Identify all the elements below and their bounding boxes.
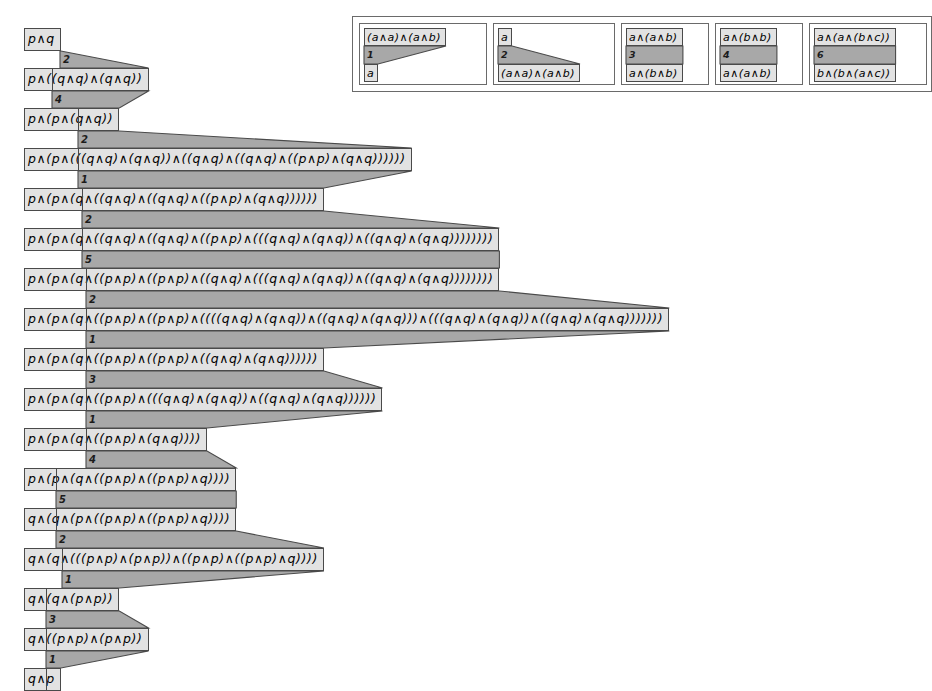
formula-row: p∧(p∧(((q∧q)∧(q∧q))∧((q∧q)∧((q∧q)∧((p∧p)… [24, 148, 412, 171]
rewrite-step-number: 1 [89, 335, 96, 345]
formula-text: p∧(p∧(q∧((p∧p)∧(((q∧q)∧(q∧q))∧((q∧q)∧(q∧… [28, 393, 376, 406]
rewrite-step-number: 2 [81, 135, 88, 145]
formula-row: p∧(p∧(q∧((q∧q)∧((q∧q)∧((p∧p)∧(q∧q)))))) [24, 188, 324, 211]
rewrite-band-11-12 [56, 491, 236, 508]
rewrite-band-4-5 [82, 211, 499, 228]
rewrite-band-2-3 [78, 131, 412, 148]
formula-text: p∧(p∧(q∧((p∧p)∧((p∧p)∧((((q∧q)∧(q∧q))∧((… [28, 313, 663, 326]
formula-row: p∧(p∧(q∧((q∧q)∧((q∧q)∧((p∧p)∧(((q∧q)∧(q∧… [24, 228, 499, 251]
rewrite-band-12-13 [56, 531, 324, 548]
formula-row: p∧(p∧(q∧((p∧p)∧(q∧q)))) [24, 428, 207, 451]
rewrite-step-number: 2 [59, 535, 66, 545]
formula-text: q∧p [28, 673, 55, 686]
formula-row: p∧q [24, 28, 61, 51]
rewrite-step-number: 1 [89, 415, 96, 425]
rewrite-band-8-9 [86, 371, 382, 388]
formula-row: p∧(p∧(q∧((p∧p)∧((p∧p)∧((q∧q)∧(q∧q)))))) [24, 348, 324, 371]
formula-row: p∧(p∧(q∧((p∧p)∧((p∧p)∧q)))) [24, 468, 236, 491]
rewrite-step-number: 2 [89, 295, 96, 305]
formula-row: p∧(p∧(q∧((p∧p)∧(((q∧q)∧(q∧q))∧((q∧q)∧(q∧… [24, 388, 382, 411]
rewrite-step-number: 4 [55, 95, 62, 105]
formula-text: p∧(p∧(q∧((q∧q)∧((q∧q)∧((p∧p)∧(q∧q)))))) [28, 193, 318, 206]
rewrite-band-1-2 [52, 91, 149, 108]
rewrite-step-number: 5 [85, 255, 92, 265]
rewrite-band-15-16 [46, 651, 149, 668]
formula-text: p∧(p∧(((q∧q)∧(q∧q))∧((q∧q)∧((q∧q)∧((p∧p)… [28, 153, 406, 166]
formula-text: p∧(p∧(q∧((p∧p)∧(q∧q)))) [28, 433, 201, 446]
rewrite-step-number: 4 [89, 455, 96, 465]
formula-text: p∧((q∧q)∧(q∧q)) [28, 73, 143, 86]
rewrite-band-13-14 [62, 571, 324, 588]
formula-text: q∧((p∧p)∧(p∧p)) [28, 633, 143, 646]
formula-text: q∧(q∧(((p∧p)∧(p∧p))∧((p∧p)∧((p∧p)∧q)))) [28, 553, 318, 566]
rewrite-band-5-6 [82, 251, 499, 268]
formula-row: q∧(q∧(p∧p)) [24, 588, 119, 611]
formula-row: p∧(p∧(q∧((p∧p)∧((p∧p)∧((q∧q)∧(((q∧q)∧(q∧… [24, 268, 499, 291]
formula-row: q∧(q∧(((p∧p)∧(p∧p))∧((p∧p)∧((p∧p)∧q)))) [24, 548, 324, 571]
rewrite-band-0-1 [60, 51, 149, 68]
rewrite-band-9-10 [86, 411, 382, 428]
rewrite-step-number: 5 [59, 495, 66, 505]
formula-text: p∧(p∧(q∧((q∧q)∧((q∧q)∧((p∧p)∧(((q∧q)∧(q∧… [28, 233, 493, 246]
rewrite-band-3-4 [78, 171, 412, 188]
formula-text: p∧(p∧(q∧((p∧p)∧((p∧p)∧q)))) [28, 473, 230, 486]
rewrite-band-10-11 [86, 451, 236, 468]
formula-text: q∧(q∧(p∧((p∧p)∧((p∧p)∧q)))) [28, 513, 230, 526]
formula-row: q∧p [24, 668, 61, 691]
rewrite-band-6-7 [86, 291, 669, 308]
rewrite-step-number: 2 [85, 215, 92, 225]
formula-row: p∧(p∧(q∧((p∧p)∧((p∧p)∧((((q∧q)∧(q∧q))∧((… [24, 308, 669, 331]
formula-text: p∧q [28, 33, 55, 46]
formula-text: p∧(p∧(q∧((p∧p)∧((p∧p)∧((q∧q)∧(((q∧q)∧(q∧… [28, 273, 493, 286]
rewrite-step-number: 1 [81, 175, 88, 185]
rewrite-step-number: 1 [65, 575, 72, 585]
formula-text: p∧(p∧(q∧q)) [28, 113, 113, 126]
rewrite-step-number: 3 [49, 615, 56, 625]
rewrite-band-7-8 [86, 331, 669, 348]
formula-text: q∧(q∧(p∧p)) [28, 593, 113, 606]
rewrite-band-14-15 [46, 611, 149, 628]
rewrite-step-number: 2 [63, 55, 70, 65]
formula-row: q∧(q∧(p∧((p∧p)∧((p∧p)∧q)))) [24, 508, 236, 531]
formula-text: p∧(p∧(q∧((p∧p)∧((p∧p)∧((q∧q)∧(q∧q)))))) [28, 353, 318, 366]
formula-row: p∧(p∧(q∧q)) [24, 108, 119, 131]
rewrite-step-number: 1 [49, 655, 56, 665]
formula-row: p∧((q∧q)∧(q∧q)) [24, 68, 149, 91]
formula-row: q∧((p∧p)∧(p∧p)) [24, 628, 149, 651]
rewrite-step-number: 3 [89, 375, 96, 385]
